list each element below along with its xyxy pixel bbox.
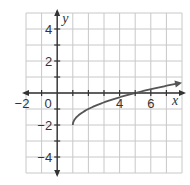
x-tick-label: 0 (45, 96, 52, 111)
y-tick-label: 2 (45, 54, 52, 69)
y-axis-label: y (60, 11, 69, 26)
x-tick-label: 6 (147, 96, 154, 111)
x-tick-label: −2 (15, 96, 30, 111)
y-tick-label: 4 (45, 22, 52, 37)
curve-arrow-icon (174, 81, 182, 88)
x-tick-label: 4 (116, 96, 123, 111)
y-tick-label: −2 (37, 118, 52, 133)
x-axis-label: x (171, 93, 179, 108)
function-graph: −204642−2−4 x y (0, 0, 190, 185)
y-tick-label: −4 (37, 150, 52, 165)
